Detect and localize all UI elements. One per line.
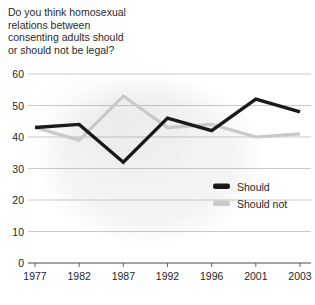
y-axis-tick-label: 20 [12, 194, 24, 206]
x-axis-tick-label: 1987 [112, 270, 136, 282]
y-axis-tick-label: 0 [18, 257, 24, 269]
x-axis-tick-label: 2001 [244, 270, 268, 282]
y-axis-tick-label: 10 [12, 226, 24, 238]
series-line-should [35, 99, 300, 162]
line-chart-svg: 0102030405060 19771982198719921996200120… [0, 0, 315, 305]
y-axis-tick-labels: 0102030405060 [12, 68, 24, 269]
x-axis-tick-labels: 1977198219871992199620012003 [23, 270, 312, 282]
legend-swatch [213, 201, 230, 207]
x-axis-tick-marks [35, 263, 300, 267]
x-axis-tick-label: 1977 [23, 270, 47, 282]
legend-label: Should [237, 181, 270, 193]
data-series-group [35, 96, 300, 162]
x-axis-tick-label: 1992 [156, 270, 180, 282]
x-axis-tick-label: 1996 [200, 270, 224, 282]
legend-label: Should not [237, 198, 287, 210]
legend-swatch [213, 184, 230, 190]
y-axis-tick-label: 30 [12, 163, 24, 175]
x-axis-tick-label: 1982 [67, 270, 91, 282]
chart-plot-area: 0102030405060 19771982198719921996200120… [0, 0, 315, 305]
x-axis-tick-label: 2003 [288, 270, 312, 282]
chart-legend: ShouldShould not [213, 181, 287, 210]
y-axis-tick-label: 60 [12, 68, 24, 80]
y-axis-tick-label: 40 [12, 131, 24, 143]
y-axis-tick-label: 50 [12, 100, 24, 112]
